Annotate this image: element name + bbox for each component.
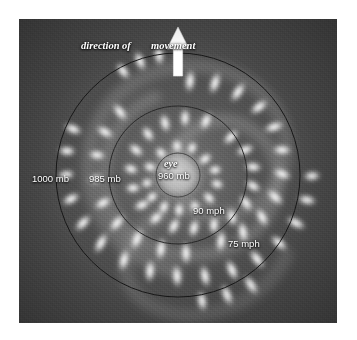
- figure-page: direction of movement 1000 mb 985 mb eye…: [0, 0, 357, 340]
- hurricane-svg: [19, 19, 337, 323]
- hurricane-diagram-plate: [19, 19, 337, 323]
- diagram-canvas: [19, 19, 337, 323]
